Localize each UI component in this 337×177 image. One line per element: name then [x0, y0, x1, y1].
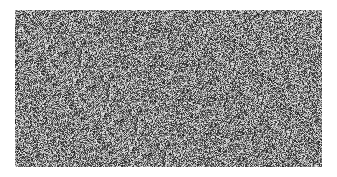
noise-image: [15, 10, 322, 167]
noise-texture: [15, 10, 322, 167]
